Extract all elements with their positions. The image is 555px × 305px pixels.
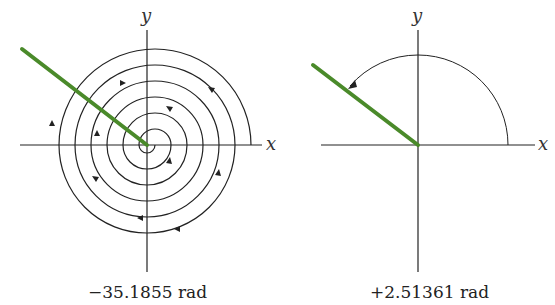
left-angle-ray	[22, 49, 147, 145]
left-caption: −35.1855 rad	[88, 282, 207, 302]
arc-arrowhead-icon	[348, 80, 357, 89]
right-angle-ray	[313, 65, 418, 145]
left-x-label: x	[266, 133, 276, 154]
diagram-canvas: x y −35.1855 rad x y +2.51361	[0, 0, 555, 305]
right-caption: +2.51361 rad	[370, 282, 489, 302]
right-panel: x y +2.51361 rad	[313, 5, 548, 302]
spiral-arrows	[49, 80, 221, 232]
left-panel: x y −35.1855 rad	[20, 5, 276, 302]
spiral-curve	[59, 49, 251, 233]
angle-arc	[350, 55, 508, 145]
right-y-label: y	[411, 5, 423, 26]
left-y-label: y	[140, 5, 152, 26]
right-x-label: x	[538, 133, 548, 154]
